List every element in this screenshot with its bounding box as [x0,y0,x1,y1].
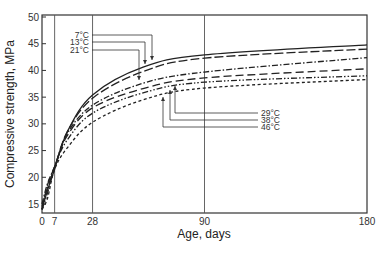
y-tick-label: 30 [28,118,40,129]
y-tick-label: 20 [28,172,40,183]
x-axis-label: Age, days [177,227,230,241]
x-tick-label: 90 [199,216,211,227]
y-tick-label: 45 [28,38,40,49]
y-axis-label: Compressive strength, MPa [3,40,17,188]
x-tick-label: 0 [39,216,45,227]
x-tick-label: 28 [87,216,99,227]
annotation-label: 21°C [70,45,89,55]
y-tick-label: 40 [28,65,40,76]
temperature-annotations: 7°C13°C21°C29°C38°C46°C [70,30,280,132]
y-tick-label: 35 [28,92,40,103]
x-axis-ticks: 072890180 [39,216,376,227]
y-tick-label: 50 [28,12,40,23]
y-tick-label: 25 [28,145,40,156]
y-axis-ticks: 1520253035404550 [28,12,46,210]
x-tick-label: 180 [359,216,376,227]
strength-age-chart: 1520253035404550 072890180 7°C13°C21°C29… [0,0,385,253]
x-tick-label: 7 [52,216,58,227]
annotation-label: 46°C [261,122,280,132]
y-tick-label: 15 [28,199,40,210]
